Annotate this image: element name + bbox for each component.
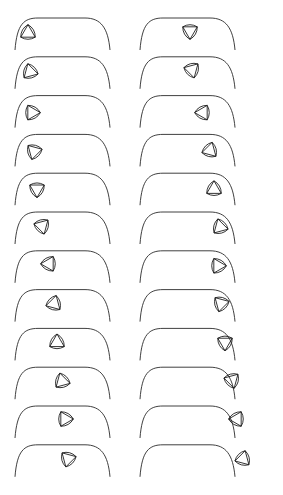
animation-frame	[140, 134, 235, 166]
inscribed-triangle	[195, 105, 208, 120]
animation-frame	[140, 96, 235, 128]
track-path	[140, 367, 235, 399]
track-path	[140, 96, 235, 128]
animation-frame	[15, 251, 110, 283]
animation-frame	[15, 212, 110, 244]
inscribed-triangle	[214, 259, 227, 274]
track-path	[15, 96, 110, 128]
track-path	[15, 251, 110, 283]
inscribed-triangle	[30, 185, 45, 198]
animation-frame	[140, 18, 235, 50]
inscribed-triangle	[50, 334, 65, 347]
track-path	[15, 406, 110, 438]
track-path	[15, 57, 110, 89]
reuleaux-rolling-diagram	[0, 0, 283, 495]
animation-frame	[15, 96, 110, 128]
animation-frame	[15, 367, 110, 399]
track-path	[15, 212, 110, 244]
animation-frame	[15, 328, 110, 360]
animation-frame	[140, 445, 249, 477]
animation-frame	[15, 445, 110, 477]
track-path	[15, 367, 110, 399]
animation-frame	[140, 251, 235, 283]
inscribed-triangle	[21, 25, 36, 38]
track-path	[15, 173, 110, 205]
animation-frame	[15, 173, 110, 205]
animation-frame	[140, 173, 235, 205]
animation-frame	[140, 367, 238, 399]
animation-frame	[15, 18, 110, 50]
track-path	[140, 290, 235, 322]
inscribed-triangle	[183, 27, 198, 40]
inscribed-triangle	[28, 105, 41, 120]
animation-frame	[140, 406, 243, 438]
animation-frame	[140, 57, 235, 89]
track-path	[140, 18, 235, 50]
track-path	[140, 328, 235, 360]
animation-frame	[15, 290, 110, 322]
track-path	[15, 290, 110, 322]
animation-frame	[15, 406, 110, 438]
track-path	[140, 134, 235, 166]
animation-frame	[140, 290, 235, 322]
animation-frame	[140, 212, 235, 244]
track-path	[140, 212, 235, 244]
animation-frame	[15, 134, 110, 166]
track-path	[140, 406, 235, 438]
animation-frame	[140, 328, 235, 360]
track-path	[140, 57, 235, 89]
animation-frame	[15, 57, 110, 89]
track-path	[140, 445, 235, 477]
track-path	[15, 18, 110, 50]
diagram-canvas	[0, 0, 283, 495]
inscribed-triangle	[41, 257, 54, 272]
inscribed-triangle	[207, 181, 222, 194]
inscribed-triangle	[61, 412, 74, 427]
track-path	[140, 251, 235, 283]
